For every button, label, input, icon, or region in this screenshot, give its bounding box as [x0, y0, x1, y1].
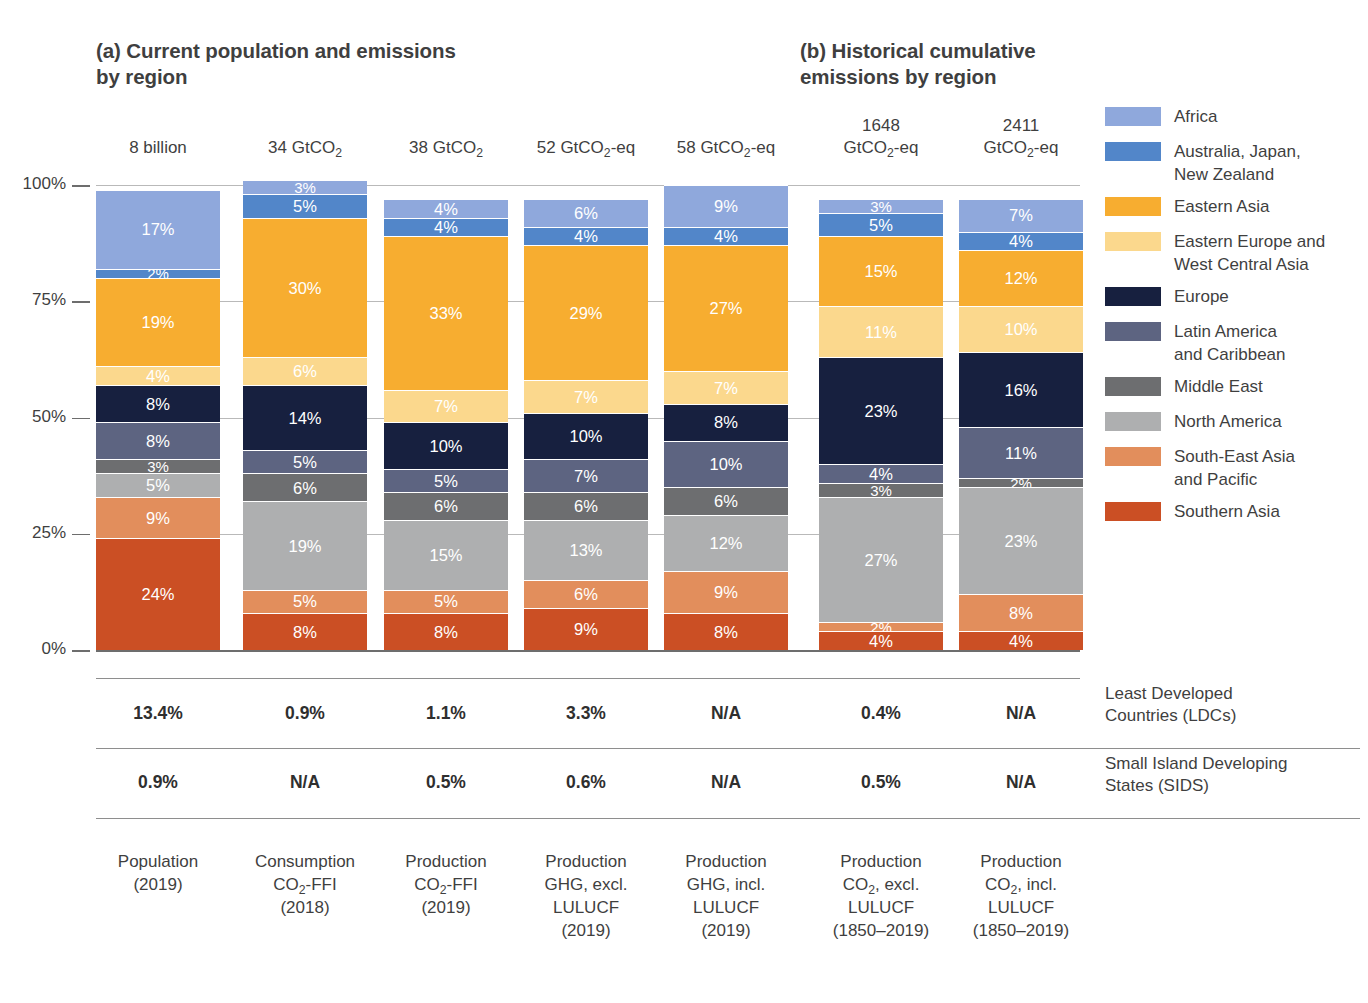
bar-segment[interactable]: 10%: [959, 306, 1083, 353]
bar-segment[interactable]: 30%: [243, 218, 367, 358]
bar-segment[interactable]: 17%: [96, 190, 220, 269]
x-axis-caption-4: ProductionGHG, excl.LULUCF(2019): [518, 850, 654, 942]
x-axis-caption-line: Population: [90, 850, 226, 873]
bar-segment[interactable]: 5%: [819, 213, 943, 236]
bar-segment[interactable]: 4%: [819, 631, 943, 650]
bar-segment[interactable]: 23%: [819, 357, 943, 464]
bar-segment[interactable]: 19%: [243, 501, 367, 589]
x-axis-caption-line: LULUCF: [658, 896, 794, 919]
legend-item-2[interactable]: Australia, Japan,New Zealand: [1105, 140, 1360, 186]
bar-column-4[interactable]: 9%6%13%6%7%10%7%29%4%6%: [524, 185, 648, 650]
bar-segment[interactable]: 3%: [819, 483, 943, 497]
bar-segment[interactable]: 5%: [96, 473, 220, 496]
bar-segment[interactable]: 10%: [384, 422, 508, 469]
legend-item-3[interactable]: Eastern Asia: [1105, 195, 1360, 221]
bar-segment[interactable]: 3%: [96, 459, 220, 473]
legend-color-swatch: [1105, 447, 1161, 466]
bar-segment[interactable]: 6%: [524, 580, 648, 608]
bar-segment[interactable]: 24%: [96, 538, 220, 650]
bar-segment[interactable]: 2%: [96, 269, 220, 278]
bar-segment[interactable]: 8%: [96, 385, 220, 422]
bar-segment[interactable]: 9%: [664, 571, 788, 613]
bar-segment[interactable]: 4%: [524, 227, 648, 246]
legend-color-swatch: [1105, 502, 1161, 521]
bar-segment[interactable]: 11%: [819, 306, 943, 357]
bar-segment[interactable]: 5%: [384, 469, 508, 492]
table-row-label: Small Island DevelopingStates (SIDS): [1105, 753, 1363, 797]
bar-segment[interactable]: 15%: [384, 520, 508, 590]
bar-segment[interactable]: 4%: [384, 199, 508, 218]
table-row-label-line1: Small Island Developing: [1105, 753, 1363, 775]
bar-segment[interactable]: 10%: [664, 441, 788, 488]
bar-segment[interactable]: 7%: [384, 390, 508, 423]
legend-item-label: Middle East: [1174, 375, 1263, 398]
bar-segment[interactable]: 9%: [524, 608, 648, 650]
bar-segment[interactable]: 8%: [243, 613, 367, 650]
legend-item-10[interactable]: Southern Asia: [1105, 500, 1360, 526]
bar-column-5[interactable]: 8%9%12%6%10%8%7%27%4%9%: [664, 185, 788, 650]
bar-segment[interactable]: 5%: [384, 590, 508, 613]
bar-segment[interactable]: 8%: [96, 422, 220, 459]
bar-segment[interactable]: 3%: [819, 199, 943, 213]
bar-segment[interactable]: 6%: [664, 487, 788, 515]
bar-segment[interactable]: 4%: [96, 366, 220, 385]
bar-segment[interactable]: 5%: [243, 194, 367, 217]
bar-segment[interactable]: 7%: [664, 371, 788, 404]
bar-segment[interactable]: 27%: [819, 497, 943, 623]
legend-item-8[interactable]: North America: [1105, 410, 1360, 436]
bar-segment[interactable]: 6%: [243, 357, 367, 385]
legend-item-9[interactable]: South-East Asiaand Pacific: [1105, 445, 1360, 491]
bar-segment[interactable]: 19%: [96, 278, 220, 366]
bar-segment[interactable]: 8%: [959, 594, 1083, 631]
bar-segment[interactable]: 4%: [819, 464, 943, 483]
bar-segment[interactable]: 8%: [664, 404, 788, 441]
bar-segment[interactable]: 3%: [243, 180, 367, 194]
bar-segment[interactable]: 7%: [524, 459, 648, 492]
bar-segment[interactable]: 5%: [243, 590, 367, 613]
x-axis-caption-line: CO2-FFI: [378, 873, 514, 896]
bar-column-3[interactable]: 8%5%15%6%5%10%7%33%4%4%: [384, 185, 508, 650]
bar-segment[interactable]: 9%: [96, 497, 220, 539]
bar-segment[interactable]: 6%: [524, 199, 648, 227]
bar-segment[interactable]: 11%: [959, 427, 1083, 478]
bar-segment[interactable]: 7%: [524, 380, 648, 413]
bar-segment[interactable]: 12%: [664, 515, 788, 571]
bar-segment[interactable]: 9%: [664, 185, 788, 227]
bar-segment[interactable]: 4%: [959, 232, 1083, 251]
bar-segment[interactable]: 15%: [819, 236, 943, 306]
legend-item-5[interactable]: Europe: [1105, 285, 1360, 311]
bar-segment[interactable]: 8%: [664, 613, 788, 650]
bar-segment[interactable]: 7%: [959, 199, 1083, 232]
bar-segment[interactable]: 16%: [959, 352, 1083, 426]
legend-color-swatch: [1105, 197, 1161, 216]
legend-item-4[interactable]: Eastern Europe andWest Central Asia: [1105, 230, 1360, 276]
bar-segment[interactable]: 6%: [524, 492, 648, 520]
bar-column-1[interactable]: 24%9%5%3%8%8%4%19%2%17%: [96, 185, 220, 650]
bar-segment[interactable]: 2%: [959, 478, 1083, 487]
bar-segment[interactable]: 14%: [243, 385, 367, 450]
legend-item-7[interactable]: Middle East: [1105, 375, 1360, 401]
bar-segment[interactable]: 10%: [524, 413, 648, 460]
bar-segment[interactable]: 33%: [384, 236, 508, 389]
bar-segment[interactable]: 27%: [664, 245, 788, 371]
bar-segment[interactable]: 6%: [243, 473, 367, 501]
bar-segment[interactable]: 4%: [384, 218, 508, 237]
bar-column-6[interactable]: 4%2%27%3%4%23%11%15%5%3%: [819, 185, 943, 650]
bar-segment[interactable]: 23%: [959, 487, 1083, 594]
table-cell: N/A: [959, 703, 1083, 724]
bar-segment[interactable]: 13%: [524, 520, 648, 580]
bar-segment[interactable]: 12%: [959, 250, 1083, 306]
bar-segment[interactable]: 4%: [664, 227, 788, 246]
legend-item-1[interactable]: Africa: [1105, 105, 1360, 131]
bar-column-2[interactable]: 8%5%19%6%5%14%6%30%5%3%: [243, 185, 367, 650]
bar-segment[interactable]: 29%: [524, 245, 648, 380]
bar-segment[interactable]: 8%: [384, 613, 508, 650]
bar-segment[interactable]: 2%: [819, 622, 943, 631]
bar-segment[interactable]: 5%: [243, 450, 367, 473]
bar-segment[interactable]: 4%: [959, 631, 1083, 650]
table-cell: 0.6%: [524, 772, 648, 793]
bar-segment[interactable]: 6%: [384, 492, 508, 520]
legend-item-6[interactable]: Latin Americaand Caribbean: [1105, 320, 1360, 366]
bar-column-7[interactable]: 4%8%23%2%11%16%10%12%4%7%: [959, 185, 1083, 650]
y-axis-tick-mark: [72, 418, 90, 420]
